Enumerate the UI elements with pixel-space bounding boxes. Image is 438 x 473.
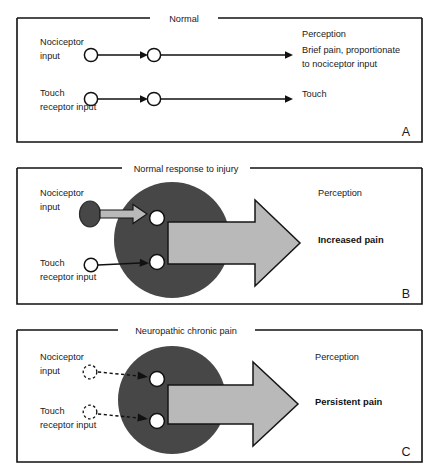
panel-c-row2-label-line1: Touch [40, 406, 65, 416]
panel-b: Normal response to injury Nociceptor inp… [17, 164, 422, 305]
panel-a-perception-heading: Perception [302, 29, 346, 39]
panel-a-row1-label-line1: Nociceptor [40, 37, 84, 47]
panel-a-title: Normal [169, 14, 199, 24]
panel-a-relay-node-2 [147, 92, 160, 105]
panel-a-row2-label-line1: Touch [40, 88, 65, 98]
panel-c-row1-label-line1: Nociceptor [40, 352, 84, 362]
panel-b-outcome: Increased pain [318, 234, 384, 245]
panel-b-letter: B [402, 287, 410, 301]
panel-a-row1-output-line1: Brief pain, proportionate [302, 45, 400, 55]
panel-c-outcome: Persistent pain [315, 396, 382, 407]
panel-c-row1-label-line2: input [40, 366, 60, 376]
panel-b-touch-node [84, 258, 98, 272]
panel-b-row1-label-line1: Nociceptor [40, 188, 84, 198]
panel-b-row1-label-line2: input [40, 202, 60, 212]
panel-b-row2-label-line1: Touch [40, 258, 65, 268]
panel-b-nociceptor-node-enlarged [80, 201, 101, 227]
panel-b-row2-label-line2: receptor input [40, 272, 97, 282]
figure-canvas: Normal Perception Nociceptor input Brief… [0, 0, 438, 473]
panel-a-row1-output-line2: to nociceptor input [302, 59, 378, 69]
panel-c-relay-node-1 [150, 372, 165, 387]
panel-a-row2-output-line1: Touch [302, 89, 327, 99]
panel-a: Normal Perception Nociceptor input Brief… [17, 14, 422, 143]
panel-c-nociceptor-node-dashed [83, 365, 97, 379]
panel-b-relay-node-2 [150, 255, 165, 270]
panel-b-perception-heading: Perception [318, 188, 362, 198]
panel-c-letter: C [401, 445, 410, 459]
panel-a-touch-node [84, 92, 97, 105]
panel-c-row2-label-line2: receptor input [40, 420, 97, 430]
panel-a-relay-node-1 [147, 48, 160, 61]
panel-a-nociceptor-node [84, 48, 97, 61]
panel-a-letter: A [402, 125, 411, 139]
panel-c-touch-node-dashed [83, 405, 97, 419]
panel-a-row1-label-line2: input [40, 51, 60, 61]
pain-mechanism-figure: Normal Perception Nociceptor input Brief… [0, 0, 438, 473]
panel-c-title: Neuropathic chronic pain [135, 326, 237, 336]
panel-b-title: Normal response to injury [134, 164, 239, 174]
panel-a-row1-arrowhead2 [285, 51, 293, 58]
panel-c: Neuropathic chronic pain Nociceptor inpu… [17, 326, 422, 463]
panel-a-row2-arrowhead2 [285, 95, 293, 102]
panel-c-relay-node-2 [150, 414, 165, 429]
panel-c-perception-heading: Perception [315, 352, 359, 362]
panel-b-relay-node-1 [150, 211, 165, 226]
